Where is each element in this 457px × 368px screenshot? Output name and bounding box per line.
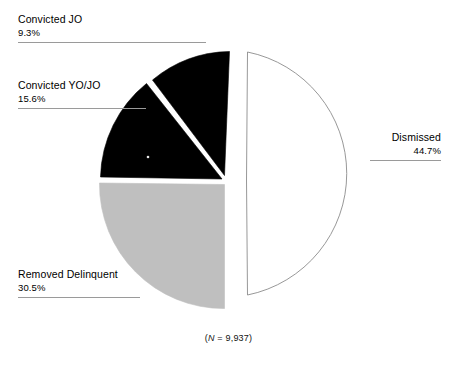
callout-dismissed-percent: 44.7% xyxy=(319,144,441,157)
leader-line-convicted-jo xyxy=(18,42,206,43)
callout-convicted-yojo-label: Convicted YO/JO xyxy=(18,78,100,92)
callout-convicted-jo-percent: 9.3% xyxy=(18,26,82,39)
callout-dismissed-label: Dismissed xyxy=(319,130,441,144)
callout-convicted-jo-label: Convicted JO xyxy=(18,12,82,26)
leader-line-convicted-yojo xyxy=(18,108,146,109)
pie-chart-figure: Convicted JO 9.3% Convicted YO/JO 15.6% … xyxy=(0,0,457,368)
callout-removed-delinquent-percent: 30.5% xyxy=(18,281,118,294)
leader-line-dismissed xyxy=(370,160,441,161)
callout-removed-delinquent: Removed Delinquent 30.5% xyxy=(18,267,118,294)
callout-removed-delinquent-label: Removed Delinquent xyxy=(18,267,118,281)
caption-n-symbol: N xyxy=(208,333,215,343)
callout-convicted-yojo: Convicted YO/JO 15.6% xyxy=(18,78,100,105)
leader-line-removed-delinquent xyxy=(18,297,140,298)
sample-size-caption: (N = 9,937) xyxy=(0,333,457,343)
callout-convicted-yojo-percent: 15.6% xyxy=(18,92,100,105)
pie-chart-canvas xyxy=(0,0,457,368)
pie-slice-removed-delinquent[interactable] xyxy=(99,183,224,309)
scan-speck xyxy=(147,156,150,159)
callout-dismissed: Dismissed 44.7% xyxy=(319,130,441,157)
pie-slice-dismissed[interactable] xyxy=(247,52,347,295)
callout-convicted-jo: Convicted JO 9.3% xyxy=(18,12,82,39)
caption-value: = 9,937) xyxy=(215,333,253,343)
